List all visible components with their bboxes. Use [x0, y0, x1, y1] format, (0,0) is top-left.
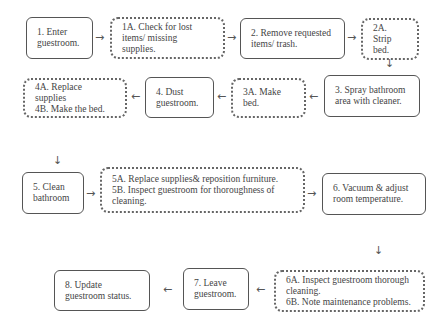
step-5a-5b-replace-supplies-inspect: 5A. Replace supplies& reposition furnitu… [100, 167, 305, 213]
step-1-label: 1. Enter guestroom. [37, 27, 79, 49]
arrow-left-icon: ← [217, 91, 226, 102]
arrow-down-icon: ↓ [53, 155, 62, 166]
step-5-clean-bathroom: 5. Clean bathroom [22, 172, 84, 214]
step-3-label: 3. Spray bathroom area with cleaner. [335, 85, 405, 107]
arrow-right-icon: → [307, 188, 316, 199]
step-2-remove-items: 2. Remove requested items/ trash. [240, 18, 345, 59]
step-4a-4b-replace-supplies-make-bed: 4A. Replace supplies 4B. Make the bed. [23, 78, 127, 118]
step-6-label: 6. Vacuum & adjust room temperature. [333, 183, 408, 205]
step-1a-label: 1A. Check for lost items/ missing suppli… [122, 22, 213, 55]
step-8-update-status: 8. Update guestroom status. [54, 270, 150, 311]
step-2a-label: 2A. Strip bed. [373, 23, 407, 56]
arrow-down-icon: ↓ [385, 58, 394, 69]
step-6a-label: 6A. Inspect guestroom thorough cleaning.… [286, 275, 411, 308]
step-8-label: 8. Update guestroom status. [65, 280, 132, 302]
step-4a-label: 4A. Replace supplies 4B. Make the bed. [35, 82, 115, 115]
arrow-left-icon: ← [131, 91, 140, 102]
step-2-label: 2. Remove requested items/ trash. [251, 28, 331, 50]
step-4-dust-guestroom: 4. Dust guestroom. [145, 77, 214, 118]
step-7-label: 7. Leave guestroom. [194, 278, 236, 300]
step-6-vacuum-adjust-temperature: 6. Vacuum & adjust room temperature. [322, 173, 426, 215]
step-3a-make-bed: 3A. Make bed. [231, 78, 306, 118]
step-5a-label: 5A. Replace supplies& reposition furnitu… [112, 174, 278, 207]
step-1a-check-lost-items: 1A. Check for lost items/ missing suppli… [110, 17, 225, 59]
arrow-down-icon: ↓ [374, 245, 383, 256]
arrow-left-icon: ← [163, 284, 172, 295]
arrow-left-icon: ← [256, 284, 265, 295]
step-3-spray-bathroom: 3. Spray bathroom area with cleaner. [324, 75, 420, 117]
step-7-leave-guestroom: 7. Leave guestroom. [183, 268, 249, 310]
step-6a-6b-inspect-note-maintenance: 6A. Inspect guestroom thorough cleaning.… [274, 270, 425, 312]
arrow-left-icon: ← [309, 91, 318, 102]
arrow-right-icon: → [95, 32, 104, 43]
step-2a-strip-bed: 2A. Strip bed. [361, 18, 419, 60]
step-5-label: 5. Clean bathroom [33, 182, 69, 204]
step-4-label: 4. Dust guestroom. [156, 87, 198, 109]
arrow-right-icon: → [347, 32, 356, 43]
arrow-right-icon: → [86, 188, 95, 199]
arrow-right-icon: → [227, 32, 236, 43]
step-3a-label: 3A. Make bed. [243, 87, 281, 109]
step-1-enter-guestroom: 1. Enter guestroom. [26, 17, 93, 59]
